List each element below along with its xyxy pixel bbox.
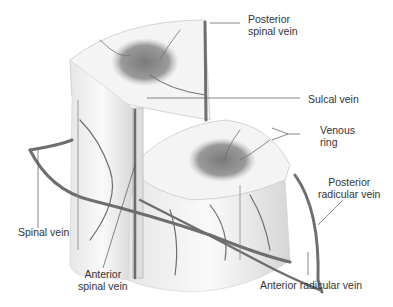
- label-posterior-spinal-vein: Posterior spinal vein: [248, 13, 298, 37]
- label-line: spinal vein: [78, 280, 128, 292]
- label-line: Posterior: [248, 13, 298, 25]
- label-spinal-vein: Spinal vein: [18, 226, 69, 238]
- label-posterior-radicular-vein: Posterior radicular vein: [318, 176, 380, 200]
- label-sulcal-vein: Sulcal vein: [308, 93, 359, 105]
- spinal-cord-illustration: [0, 0, 393, 307]
- label-line: ring: [320, 136, 355, 148]
- label-venous-ring: Venous ring: [320, 124, 355, 148]
- label-line: Anterior: [78, 268, 128, 280]
- label-line: Venous: [320, 124, 355, 136]
- label-line: radicular vein: [318, 188, 380, 200]
- label-anterior-radicular-vein: Anterior radicular vein: [260, 279, 362, 291]
- label-line: spinal vein: [248, 25, 298, 37]
- anatomy-figure: Posterior spinal vein Sulcal vein Venous…: [0, 0, 393, 307]
- label-line: Posterior: [318, 176, 380, 188]
- label-anterior-spinal-vein: Anterior spinal vein: [78, 268, 128, 292]
